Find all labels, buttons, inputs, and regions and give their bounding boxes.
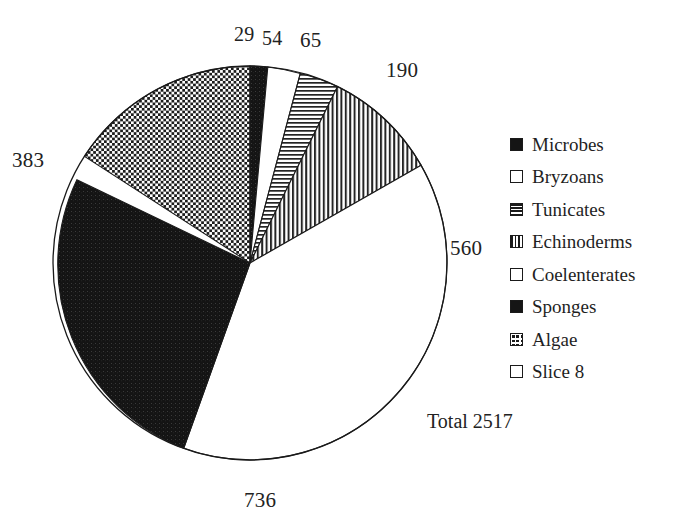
legend-item-tunicates: Tunicates <box>510 193 683 226</box>
legend-item-microbes: Microbes <box>510 128 683 161</box>
legend-item-echinoderms: Echinoderms <box>510 226 683 259</box>
value-label-bryzoans: 54 <box>262 28 282 48</box>
legend-label-tunicates: Tunicates <box>532 200 605 219</box>
legend-item-coelenterates: Coelenterates <box>510 258 683 291</box>
value-label-algae: 383 <box>12 150 44 171</box>
legend-label-coelenterates: Coelenterates <box>532 265 635 284</box>
pie-chart-figure: 29 54 65 190 560 736 383 Total 2517 Micr… <box>0 0 683 530</box>
legend-item-sponges: Sponges <box>510 291 683 324</box>
legend-swatch-solid-icon <box>510 138 523 151</box>
pie-svg <box>50 62 450 464</box>
legend-swatch-empty-icon <box>510 268 523 281</box>
legend-swatch-empty-icon <box>510 365 523 378</box>
pie-graphic <box>50 62 450 464</box>
legend-label-sponges: Sponges <box>532 297 596 316</box>
legend-swatch-vertical-lines-icon <box>510 235 523 248</box>
legend-label-algae: Algae <box>532 330 577 349</box>
legend-label-echinoderms: Echinoderms <box>532 232 632 251</box>
legend-label-slice-8: Slice 8 <box>532 362 584 381</box>
value-label-microbes: 29 <box>234 24 254 44</box>
legend-swatch-solid-icon <box>510 300 523 313</box>
value-label-echinoderms: 190 <box>386 60 418 81</box>
total-label: Total 2517 <box>427 410 513 433</box>
legend-item-bryzoans: Bryzoans <box>510 161 683 194</box>
legend-swatch-empty-icon <box>510 170 523 183</box>
legend-label-bryzoans: Bryzoans <box>532 167 604 186</box>
legend-item-algae: Algae <box>510 323 683 356</box>
value-label-coelenterates: 560 <box>450 238 482 259</box>
chart-legend: Microbes Bryzoans Tunicates Echinoderms … <box>510 128 683 388</box>
pie-slices <box>53 66 447 460</box>
value-label-tunicates: 65 <box>300 30 321 51</box>
legend-item-slice-8: Slice 8 <box>510 356 683 389</box>
legend-swatch-horizontal-lines-icon <box>510 203 523 216</box>
value-label-sponges: 736 <box>244 490 276 511</box>
legend-swatch-checker-icon <box>510 333 523 346</box>
legend-label-microbes: Microbes <box>532 135 604 154</box>
